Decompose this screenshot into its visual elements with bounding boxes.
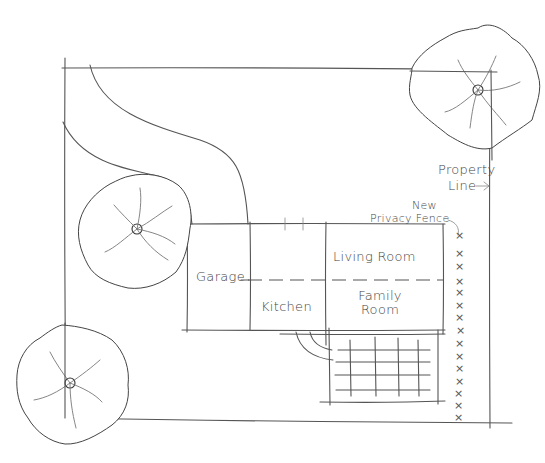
fence-x-marker: × [455, 230, 464, 241]
label-living-room: Living Room [333, 250, 416, 264]
fence-x-marker: × [454, 400, 463, 411]
label-fence-1: New [412, 199, 437, 213]
tree-bottom-left [17, 323, 129, 444]
label-garage: Garage [196, 270, 245, 284]
label-kitchen: Kitchen [261, 300, 312, 314]
fence-x-marker: × [455, 261, 464, 272]
fence-x-marker: × [454, 412, 463, 423]
fence-x-marker: × [456, 325, 465, 336]
label-family-room-line1: Family [350, 289, 410, 303]
fence-x-marker: × [455, 287, 464, 298]
fence-x-marker: × [455, 300, 464, 311]
tree-top-right [409, 25, 539, 160]
fence-x-marker: × [455, 248, 464, 259]
label-property-line-2: Line [448, 179, 476, 193]
patio-grid [280, 328, 445, 405]
tree-left-middle [78, 174, 191, 288]
label-family-room: Family Room [350, 289, 410, 317]
fence-x-marker: × [455, 312, 464, 323]
label-fence-2: Privacy Fence [370, 212, 450, 226]
fence-x-marker: × [455, 376, 464, 387]
property-line-arrow [476, 182, 489, 190]
label-family-room-line2: Room [350, 303, 410, 317]
fence-x-marker: × [454, 388, 463, 399]
fence-x-marker: × [455, 351, 464, 362]
fence-x-marker: × [455, 338, 464, 349]
fence-x-marker: × [455, 363, 464, 374]
label-property-line-1: Property [438, 163, 495, 177]
